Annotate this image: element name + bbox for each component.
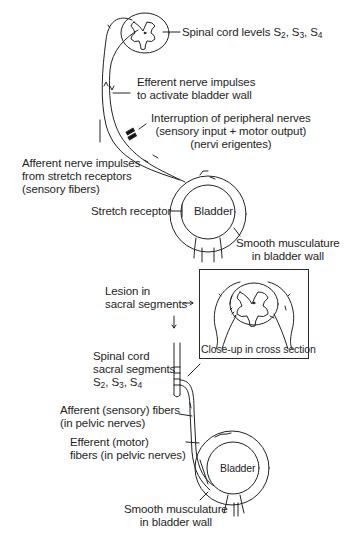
spinal-cord-levels-label: Spinal cord levels S2, S3, S4 xyxy=(182,26,322,42)
efferent-fibers-label: Efferent (motor) fibers (in pelvic nerve… xyxy=(70,436,186,462)
smooth-musculature-top-label: Smooth musculature in bladder wall xyxy=(236,237,340,263)
pelvic-nerve-path xyxy=(180,380,214,486)
closeup-label: Close-up in cross section xyxy=(201,343,316,356)
interruption-label: Interruption of peripheral nerves (senso… xyxy=(151,112,311,151)
bladder-bottom-label: Bladder xyxy=(220,462,256,475)
stretch-receptor-label: Stretch receptor xyxy=(91,205,171,218)
afferent-fibers-label: Afferent (sensory) fibers (in pelvic ner… xyxy=(60,404,180,430)
nerve-interruption-marker xyxy=(126,124,146,140)
afferent-impulses-label: Afferent nerve impulses from stretch rec… xyxy=(22,157,140,196)
closeup-cross-section-box: Close-up in cross section xyxy=(199,269,309,359)
spinal-cord-sacral-label: Spinal cord sacral segments S2, S3, S4 xyxy=(93,350,175,392)
bladder-top-label: Bladder xyxy=(194,205,233,218)
smooth-musculature-bottom-label: Smooth musculature in bladder wall xyxy=(124,503,228,529)
efferent-impulses-label: Efferent nerve impulses to activate blad… xyxy=(137,76,255,102)
lesion-label: Lesion in sacral segments xyxy=(105,285,187,311)
